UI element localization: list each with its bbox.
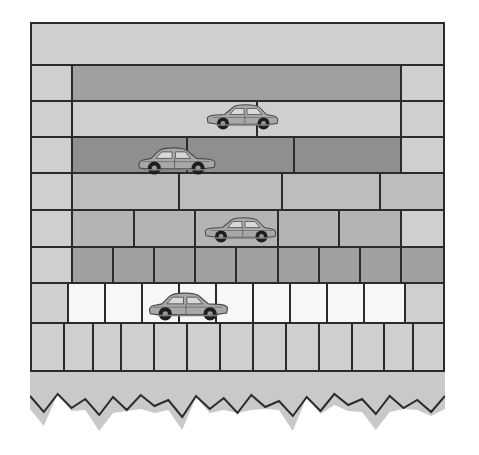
brick (196, 211, 278, 246)
brick (32, 248, 73, 282)
brick (217, 284, 254, 322)
brick (106, 284, 143, 322)
brick (73, 102, 258, 136)
course-8-white (32, 284, 443, 324)
brick (402, 102, 443, 136)
brick (69, 284, 106, 322)
brick (320, 324, 353, 370)
brick (402, 138, 443, 172)
brick (122, 324, 155, 370)
brick (258, 102, 402, 136)
course-3 (32, 102, 443, 138)
brick (340, 211, 402, 246)
brick (143, 284, 180, 322)
brick (320, 248, 361, 282)
brick (180, 174, 283, 209)
brick (385, 324, 414, 370)
brick (32, 102, 73, 136)
brick (381, 174, 443, 209)
brick (402, 248, 443, 282)
brick (32, 284, 69, 322)
course-5 (32, 174, 443, 211)
brick (73, 174, 180, 209)
brick-wall (30, 22, 445, 372)
brick (196, 248, 237, 282)
brick (135, 211, 197, 246)
rubble-svg (30, 372, 445, 444)
brick (361, 248, 402, 282)
brick (188, 324, 221, 370)
brick (406, 284, 443, 322)
brick (94, 324, 123, 370)
brick (295, 138, 402, 172)
course-6 (32, 211, 443, 248)
brick (365, 284, 406, 322)
brick (180, 284, 217, 322)
brick (254, 324, 287, 370)
course-7 (32, 248, 443, 284)
brick (155, 248, 196, 282)
brick (32, 66, 73, 100)
brick (32, 24, 443, 64)
brick (73, 248, 114, 282)
brick (237, 248, 278, 282)
brick (328, 284, 365, 322)
brick (291, 284, 328, 322)
brick (73, 66, 402, 100)
brick (114, 248, 155, 282)
course-9-base (32, 324, 443, 370)
brick (65, 324, 94, 370)
brick (188, 138, 295, 172)
brick (32, 211, 73, 246)
course-2 (32, 66, 443, 102)
wall-diagram (0, 0, 479, 455)
brick (287, 324, 320, 370)
brick (73, 211, 135, 246)
brick (353, 324, 386, 370)
brick (32, 324, 65, 370)
brick (402, 66, 443, 100)
brick (73, 138, 188, 172)
brick (221, 324, 254, 370)
brick (283, 174, 382, 209)
jagged-broken-base (30, 372, 445, 444)
brick (155, 324, 188, 370)
brick (279, 211, 341, 246)
brick (414, 324, 443, 370)
brick (279, 248, 320, 282)
brick (32, 174, 73, 209)
course-1-capping (32, 24, 443, 66)
brick (254, 284, 291, 322)
brick (32, 138, 73, 172)
brick (402, 211, 443, 246)
course-4 (32, 138, 443, 174)
